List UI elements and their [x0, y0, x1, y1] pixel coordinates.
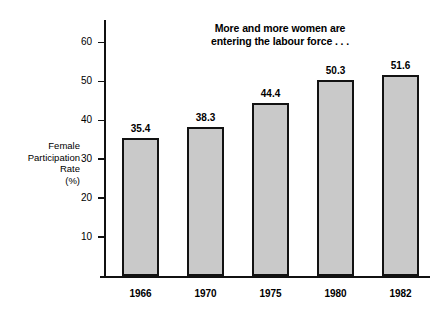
y-axis-label-line-3: Rate: [6, 163, 80, 175]
y-axis-line: [104, 20, 106, 277]
x-axis-tick-label: 1970: [176, 288, 236, 299]
x-axis-line: [100, 276, 430, 278]
y-axis-tick: [98, 197, 106, 199]
y-axis-tick: [98, 81, 106, 83]
y-axis-label-line-4: (%): [6, 175, 80, 187]
bar-value-label: 51.6: [376, 60, 426, 71]
bar: [382, 75, 419, 276]
bar-value-label: 35.4: [116, 123, 166, 134]
x-axis-tick-label: 1980: [306, 288, 366, 299]
y-axis-tick-label: 30: [66, 154, 92, 164]
plot-area: 102030405060 35.438.344.450.351.6 196619…: [104, 20, 430, 277]
bar: [252, 103, 289, 276]
bar: [317, 80, 354, 276]
bar-value-label: 50.3: [311, 65, 361, 76]
y-axis-tick: [98, 42, 106, 44]
y-axis-label-line-1: Female: [6, 140, 80, 152]
bar-value-label: 38.3: [181, 112, 231, 123]
x-axis-tick-label: 1982: [371, 288, 431, 299]
x-axis-tick-label: 1975: [241, 288, 301, 299]
y-axis-tick-label: 20: [66, 193, 92, 203]
y-axis-tick: [98, 158, 106, 160]
y-axis-tick-label: 50: [66, 76, 92, 86]
y-axis-tick: [98, 120, 106, 122]
bar: [122, 138, 159, 276]
y-axis-tick-label: 10: [66, 232, 92, 242]
y-axis-tick: [98, 236, 106, 238]
x-axis-tick-label: 1966: [111, 288, 171, 299]
y-axis-tick-label: 60: [66, 37, 92, 47]
bar-value-label: 44.4: [246, 88, 296, 99]
y-axis-tick-label: 40: [66, 115, 92, 125]
bar-chart: More and more women are entering the lab…: [0, 0, 442, 319]
bar: [187, 127, 224, 276]
